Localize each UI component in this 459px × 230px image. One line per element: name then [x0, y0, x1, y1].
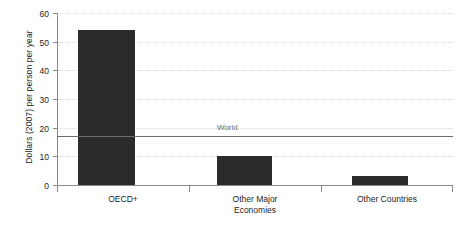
bar-other-major-economies [217, 156, 272, 185]
x-axis-spine [57, 185, 453, 186]
x-label-oecd-plus: OECD+ [57, 194, 189, 205]
x-label-other-countries-line-1: Other Countries [321, 194, 453, 205]
y-tick-label-30: 30 [40, 95, 49, 105]
x-label-other-major-economies-line-1: Other Major [189, 194, 321, 205]
bar-other-countries [352, 176, 408, 185]
y-tick-label-10: 10 [40, 152, 49, 162]
world-reference-line [57, 136, 453, 137]
y-tick-label-20: 20 [40, 124, 49, 134]
y-axis-title: Dollars (2007) per person per year [24, 12, 34, 182]
bar-chart: Dollars (2007) per person per year 60 50… [0, 0, 459, 230]
gridline-60 [57, 13, 453, 14]
x-tick-boundary-2 [321, 185, 322, 192]
y-axis-spine [57, 13, 58, 185]
x-tick-right-edge [452, 185, 453, 192]
bar-oecd-plus [78, 30, 135, 185]
y-tick-label-50: 50 [40, 38, 49, 48]
y-tick-label-60: 60 [40, 9, 49, 19]
x-label-oecd-plus-line-1: OECD+ [57, 194, 189, 205]
x-label-other-countries: Other Countries [321, 194, 453, 205]
y-tick-label-40: 40 [40, 66, 49, 76]
x-tick-left-edge [57, 185, 58, 192]
world-reference-label: World [217, 123, 238, 132]
x-label-other-major-economies: Other Major Economies [189, 194, 321, 216]
plot-area: 60 50 40 30 20 10 0 [57, 13, 453, 185]
y-tick-label-0: 0 [44, 181, 49, 191]
x-label-other-major-economies-line-2: Economies [189, 205, 321, 216]
x-tick-boundary-1 [189, 185, 190, 192]
